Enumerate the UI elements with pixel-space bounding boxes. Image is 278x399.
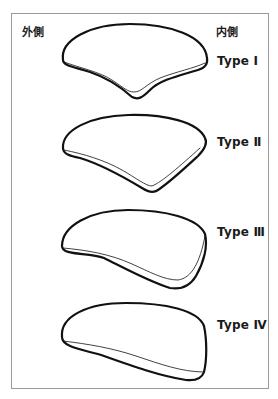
type-3-shape bbox=[62, 210, 206, 289]
type-4-shape bbox=[62, 303, 206, 380]
type-2-shape bbox=[63, 115, 206, 192]
type-1-shape bbox=[63, 24, 207, 98]
